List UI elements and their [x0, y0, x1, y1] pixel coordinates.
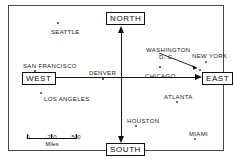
scale-ticks: 0 250 500: [27, 134, 77, 139]
city-label-los-angeles: LOS ANGELES: [44, 96, 90, 103]
direction-label-south: SOUTH: [106, 143, 145, 156]
scale-unit-label: Miles: [27, 141, 77, 147]
city-dot-miami: [194, 138, 196, 140]
east-arrowhead-icon: [195, 74, 202, 80]
city-dot-chicago: [159, 66, 161, 68]
city-label-san-francisco: SAN FRANCISCO: [23, 63, 77, 70]
city-dot-new-york: [205, 61, 207, 63]
direction-label-east: EAST: [202, 72, 233, 85]
city-label-miami: MIAMI: [189, 131, 208, 138]
city-dot-washington-dc: [199, 69, 201, 71]
scale-number-250: 250: [47, 134, 56, 140]
city-dot-san-francisco: [34, 70, 36, 72]
scale-number-0: 0: [26, 134, 29, 140]
compass-map-figure: NORTH SOUTH WEST EAST SEATTLESAN FRANCIS…: [0, 0, 234, 159]
city-label-atlanta: ATLANTA: [164, 94, 193, 101]
city-dot-houston: [135, 125, 137, 127]
city-dot-atlanta: [176, 101, 178, 103]
city-dot-denver: [102, 78, 104, 80]
city-label-denver: DENVER: [89, 70, 116, 77]
city-dot-seattle: [57, 22, 59, 24]
city-label-d-c: D. C.: [159, 54, 174, 61]
city-label-seattle: SEATTLE: [51, 29, 80, 36]
city-label-new-york: NEW YORK: [192, 53, 227, 60]
city-label-washington: WASHINGTON: [146, 47, 191, 54]
city-dot-los-angeles: [40, 92, 42, 94]
north-south-axis: [121, 31, 122, 139]
map-frame: NORTH SOUTH WEST EAST SEATTLESAN FRANCIS…: [8, 5, 224, 151]
north-arrowhead-icon: [118, 26, 124, 33]
south-arrowhead-icon: [118, 136, 124, 143]
direction-label-north: NORTH: [106, 12, 145, 25]
direction-label-west: WEST: [22, 72, 56, 85]
city-label-houston: HOUSTON: [127, 118, 159, 125]
city-label-chicago: CHICAGO: [145, 73, 175, 80]
scale-number-500: 500: [71, 134, 80, 140]
